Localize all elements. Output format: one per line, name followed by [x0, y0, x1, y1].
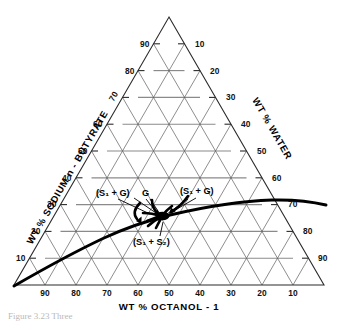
leader-line-cluster: [118, 196, 196, 236]
tick-right-90: 90: [318, 253, 328, 263]
region-label-s1-s2: (S₁ + S₂): [133, 237, 170, 247]
tick-bottom-90: 90: [40, 288, 50, 298]
tick-right-10: 10: [195, 39, 205, 49]
tick-right-40: 40: [241, 119, 251, 129]
tick-bottom-40: 40: [195, 288, 205, 298]
figure-caption: Figure 3.23 Three: [8, 311, 73, 321]
tick-bottom-30: 30: [226, 288, 236, 298]
tick-right-60: 60: [272, 173, 282, 183]
tick-bottom-80: 80: [71, 288, 81, 298]
tick-right-20: 20: [210, 66, 220, 76]
tick-right-80: 80: [303, 226, 313, 236]
tick-bottom-20: 20: [257, 288, 267, 298]
axis-title-left: WT % SODIUM n - BUTYRATE: [24, 108, 110, 246]
tick-bottom-50: 50: [164, 288, 174, 298]
region-label-g: G: [142, 188, 149, 198]
figure-root: (S₁ + G) G (S₁ + G) (S₁ + S₂) 10 20 30 4…: [0, 0, 338, 322]
tick-right-70: 70: [288, 199, 298, 209]
tick-left-10: 10: [16, 253, 26, 263]
tick-left-80: 80: [125, 66, 135, 76]
ternary-phase-diagram: (S₁ + G) G (S₁ + G) (S₁ + S₂) 10 20 30 4…: [0, 0, 338, 322]
tick-right-30: 30: [226, 92, 236, 102]
region-label-s1-g-right: (S₁ + G): [180, 186, 214, 196]
tick-labels-bottom-axis: 90 80 70 60 50 40 30 20 10: [40, 288, 298, 298]
region-label-s1-g-left: (S₁ + G): [96, 188, 130, 198]
tick-left-90: 90: [140, 39, 150, 49]
tick-bottom-70: 70: [102, 288, 112, 298]
tick-right-50: 50: [257, 146, 267, 156]
tick-bottom-10: 10: [288, 288, 298, 298]
axis-title-bottom: WT % OCTANOL - 1: [119, 301, 219, 312]
tick-bottom-60: 60: [133, 288, 143, 298]
tick-left-70: 70: [107, 89, 121, 103]
